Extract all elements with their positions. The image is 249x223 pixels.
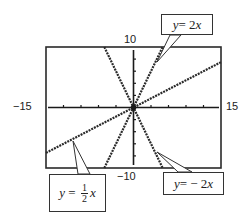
- origin-point: [131, 105, 137, 111]
- callout-equation: = − 2: [180, 176, 208, 192]
- fraction-one-half: 1 2: [81, 183, 88, 204]
- y-min-label: −10: [117, 171, 136, 182]
- callout-y-equals-neg-2x: y = − 2 x: [163, 172, 224, 195]
- callout-y-equals-half-x: y = 1 2 x: [49, 174, 106, 212]
- callout-var-x: x: [90, 185, 96, 201]
- callout-var-x: x: [196, 17, 202, 33]
- fraction-numerator: 1: [81, 183, 88, 194]
- x-min-label: −15: [13, 101, 32, 112]
- callout-equation: = 2: [178, 17, 195, 33]
- y-max-label: 10: [124, 34, 136, 45]
- callout-var-x: x: [207, 176, 213, 192]
- callout-y-equals-2x: y = 2 x: [161, 14, 213, 35]
- callout-equation: =: [65, 185, 79, 201]
- x-max-label: 15: [226, 101, 238, 112]
- fraction-denominator: 2: [82, 194, 87, 204]
